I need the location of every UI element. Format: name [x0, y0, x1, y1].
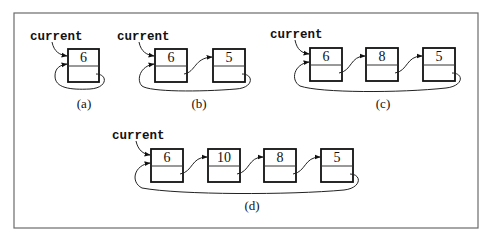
node-value: 8 [379, 49, 386, 64]
current-pointer-arrow [136, 141, 150, 155]
next-link-arrow [180, 157, 207, 174]
current-pointer-label: current [270, 28, 323, 42]
node: 6 [310, 48, 342, 81]
node: 10 [208, 149, 240, 182]
panel-caption: (a) [77, 96, 91, 111]
node: 6 [155, 49, 187, 82]
figure-frame [14, 13, 478, 228]
node: 8 [366, 48, 398, 81]
current-pointer-label: current [30, 30, 83, 44]
next-link-arrow [395, 56, 422, 73]
node: 8 [264, 149, 296, 182]
panel-caption: (d) [244, 198, 259, 213]
node: 5 [423, 48, 455, 81]
panel-a: current 6 (a) [30, 30, 104, 111]
current-pointer-label: current [112, 129, 165, 143]
node-value: 5 [436, 49, 443, 64]
current-pointer-arrow [52, 42, 67, 56]
panel-b: current 6 5 (b) [117, 30, 250, 111]
diagram-canvas: current 6 (a) current 6 5 (b) current [0, 0, 486, 240]
panel-caption: (b) [191, 96, 206, 111]
current-pointer-arrow [139, 42, 154, 56]
node-value: 6 [164, 150, 171, 165]
node-value: 10 [217, 150, 231, 165]
node: 5 [213, 49, 245, 82]
node-value: 6 [80, 50, 87, 65]
node-value: 6 [323, 49, 330, 64]
node-value: 5 [226, 50, 233, 65]
next-link-arrow [184, 57, 212, 74]
node: 5 [321, 149, 353, 182]
current-pointer-label: current [117, 30, 170, 44]
node-value: 5 [334, 150, 341, 165]
panel-caption: (c) [376, 96, 390, 111]
next-link-arrow [293, 157, 320, 174]
node: 6 [68, 49, 99, 82]
node-value: 6 [168, 50, 175, 65]
panel-d: current 6 10 8 5 (d) [112, 129, 358, 213]
node: 6 [151, 149, 183, 182]
panel-c: current 6 8 5 (c) [270, 28, 460, 111]
current-pointer-arrow [295, 40, 309, 54]
node-value: 8 [277, 150, 284, 165]
